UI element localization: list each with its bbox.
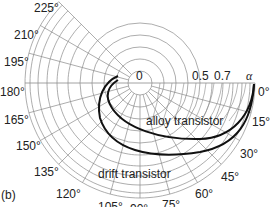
angle-label: 195° <box>4 55 29 69</box>
grid-tick-curve <box>222 83 238 121</box>
angle-label: 90° <box>130 202 148 207</box>
angle-label: 75° <box>162 198 180 207</box>
grid-spoke <box>29 53 128 80</box>
angle-label: 30° <box>240 147 258 161</box>
angle-label: 135° <box>34 165 59 179</box>
angle-label: 105° <box>98 200 123 207</box>
angle-label: 60° <box>195 187 213 201</box>
angle-label: 150° <box>16 139 41 153</box>
angle-label: 0° <box>258 85 270 99</box>
polar-chart: 0 0.5 0.7 α alloy transistor drift trans… <box>0 0 270 207</box>
angle-label: 165° <box>4 113 29 127</box>
grid-spoke <box>59 92 132 165</box>
radial-label-0.5: 0.5 <box>192 69 209 83</box>
grid-spoke <box>59 2 132 75</box>
angle-label: 180° <box>0 85 25 99</box>
radial-label-0.7: 0.7 <box>214 69 231 83</box>
center-label: 0 <box>136 69 143 83</box>
angle-label: 225° <box>34 1 59 15</box>
angle-label: 210° <box>14 28 39 42</box>
grid-spoke <box>152 86 252 113</box>
angle-label: 15° <box>252 115 270 129</box>
figure-label: (b) <box>1 188 16 202</box>
angle-label: 45° <box>221 170 239 184</box>
angle-label: 120° <box>56 187 81 201</box>
labels: 0 0.5 0.7 α alloy transistor drift trans… <box>1 69 253 202</box>
polar-alpha-diagram: 0 0.5 0.7 α alloy transistor drift trans… <box>0 0 270 207</box>
grid-spoke <box>40 26 129 78</box>
alpha-symbol: α <box>246 69 253 83</box>
curve-label-drift: drift transistor <box>98 167 171 181</box>
curve-label-alloy: alloy transistor <box>146 114 223 128</box>
